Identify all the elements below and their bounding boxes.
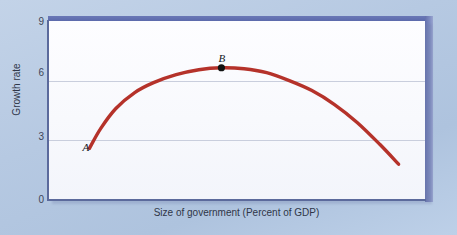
point-b-label: B: [218, 53, 225, 64]
point-b-marker: [218, 64, 225, 71]
point-a-label: A: [82, 142, 89, 153]
chart-figure: 9 6 3 0 Growth rate Size of government (…: [0, 0, 457, 235]
growth-rate-curve: [89, 68, 398, 165]
curve-layer: [0, 0, 457, 235]
